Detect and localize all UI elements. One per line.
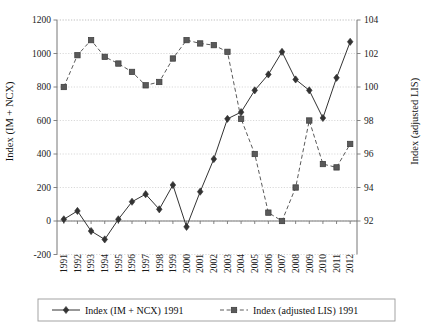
right-tick-label: 94 [364, 183, 374, 193]
data-point-marker [197, 41, 202, 46]
data-point-marker [102, 54, 107, 59]
left-tick-label: 200 [37, 183, 52, 193]
x-tick-label: 1997 [141, 254, 151, 273]
x-tick-label: 1993 [86, 254, 96, 273]
x-tick-label: 2002 [209, 254, 219, 273]
left-tick-label: 800 [37, 82, 52, 92]
data-point-marker [211, 42, 216, 47]
x-tick-label: 1998 [155, 254, 165, 273]
x-tick-label: 2000 [182, 254, 192, 273]
x-tick-label: 2008 [291, 254, 301, 273]
right-tick-label: 92 [364, 216, 374, 226]
legend-label: Index (IM + NCX) 1991 [85, 305, 183, 317]
dual-axis-line-chart: -200020040060080010001200 92949698100102… [0, 0, 429, 331]
right-tick-label: 102 [364, 49, 379, 59]
left-tick-label: 400 [37, 149, 52, 159]
data-point-marker [61, 84, 66, 89]
right-tick-label: 104 [364, 15, 379, 25]
data-point-marker [252, 151, 257, 156]
data-point-marker [184, 37, 189, 42]
left-tick-label: 600 [37, 116, 52, 126]
left-tick-label: 0 [46, 216, 51, 226]
x-tick-label: 1999 [168, 254, 178, 273]
data-point-marker [143, 83, 148, 88]
x-tick-label: 2001 [195, 254, 205, 273]
data-point-marker [170, 56, 175, 61]
x-tick-label: 1994 [100, 254, 110, 273]
left-tick-label: 1000 [32, 49, 51, 59]
data-point-marker [320, 161, 325, 166]
data-point-marker [129, 69, 134, 74]
x-tick-label: 2004 [236, 254, 246, 273]
data-point-marker [225, 49, 230, 54]
x-tick-label: 2010 [318, 254, 328, 273]
data-point-marker [116, 61, 121, 66]
chart-legend: Index (IM + NCX) 1991Index (adjusted LIS… [38, 299, 395, 321]
right-tick-label: 100 [364, 82, 379, 92]
right-tick-label: 96 [364, 149, 374, 159]
data-point-marker [88, 37, 93, 42]
chart-container: -200020040060080010001200 92949698100102… [0, 0, 429, 331]
data-point-marker [293, 185, 298, 190]
data-point-marker [157, 79, 162, 84]
left-tick-label: -200 [34, 250, 52, 260]
x-tick-label: 2003 [223, 254, 233, 273]
left-axis-title: Index (IM + NCX) [4, 81, 16, 161]
x-tick-label: 2011 [332, 254, 342, 273]
x-tick-label: 2012 [345, 254, 355, 273]
x-tick-label: 2006 [264, 254, 274, 273]
data-point-marker [266, 210, 271, 215]
right-tick-label: 98 [364, 116, 374, 126]
x-tick-label: 2007 [277, 254, 287, 273]
right-axis-title: Index (adjusted LIS) [409, 77, 421, 164]
legend-marker-square-icon [231, 307, 236, 312]
x-tick-label: 1992 [73, 254, 83, 273]
x-tick-label: 2009 [305, 254, 315, 273]
data-point-marker [238, 116, 243, 121]
data-point-marker [279, 218, 284, 223]
x-tick-label: 1995 [114, 254, 124, 273]
x-tick-label: 2005 [250, 254, 260, 273]
x-tick-label: 1991 [59, 254, 69, 273]
x-tick-label: 1996 [127, 254, 137, 273]
data-point-marker [75, 52, 80, 57]
data-point-marker [307, 118, 312, 123]
data-point-marker [347, 141, 352, 146]
data-point-marker [334, 165, 339, 170]
left-tick-label: 1200 [32, 15, 51, 25]
legend-label: Index (adjusted LIS) 1991 [253, 305, 358, 317]
